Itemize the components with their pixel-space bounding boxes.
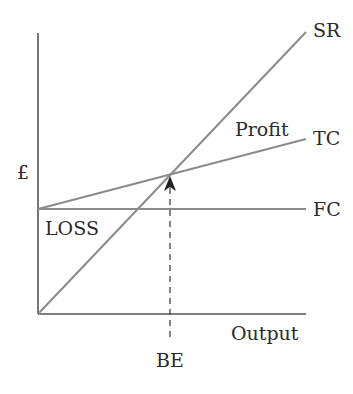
x-axis-label: Output <box>231 322 299 344</box>
break-even-label: BE <box>156 349 184 371</box>
tc-label: TC <box>313 127 340 149</box>
sr-label: SR <box>313 19 341 41</box>
break-even-chart: £ SR TC FC Profit LOSS Output BE <box>0 0 353 394</box>
fc-label: FC <box>313 198 341 220</box>
sr-line <box>38 32 306 314</box>
profit-label: Profit <box>235 118 289 140</box>
y-axis-label: £ <box>17 161 29 183</box>
loss-label: LOSS <box>45 217 99 239</box>
